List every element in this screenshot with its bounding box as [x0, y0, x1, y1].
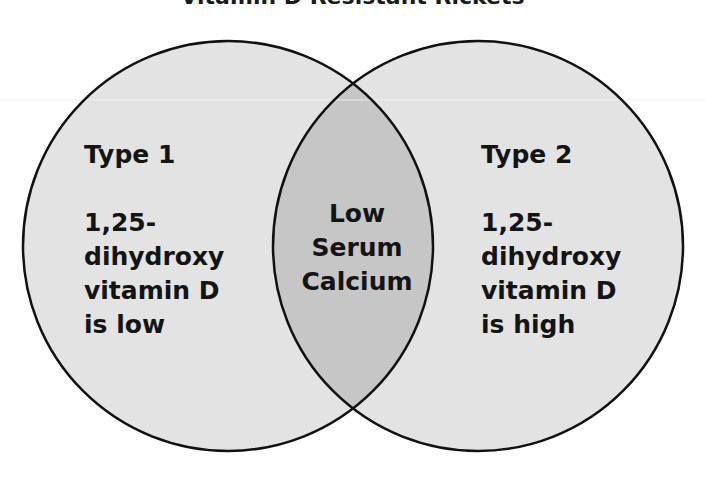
left-set-label: Type 1 1,25- dihydroxy vitamin D is low — [84, 138, 224, 342]
intersection-line: Serum — [297, 231, 417, 265]
left-set-name: Type 1 — [84, 138, 224, 172]
left-set-line: 1,25- — [84, 206, 224, 240]
left-set-line: is low — [84, 308, 224, 342]
right-set-line: vitamin D — [481, 274, 621, 308]
intersection-line: Calcium — [297, 265, 417, 299]
right-set-line: is high — [481, 308, 621, 342]
right-set-line: 1,25- — [481, 206, 621, 240]
left-set-line: dihydroxy — [84, 240, 224, 274]
right-set-line: dihydroxy — [481, 240, 621, 274]
right-set-name: Type 2 — [481, 138, 621, 172]
intersection-label: Low Serum Calcium — [297, 197, 417, 299]
left-set-line: vitamin D — [84, 274, 224, 308]
intersection-line: Low — [297, 197, 417, 231]
right-set-label: Type 2 1,25- dihydroxy vitamin D is high — [481, 138, 621, 342]
